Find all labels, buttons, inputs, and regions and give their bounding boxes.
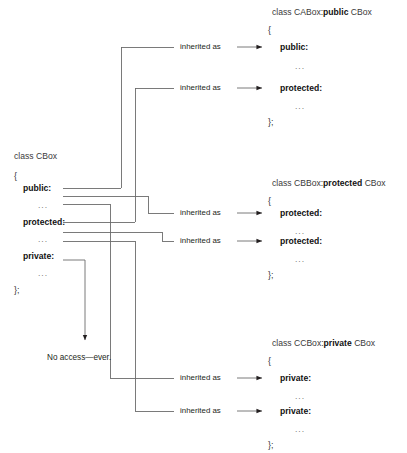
cabox-member-protected-label: protected: xyxy=(280,84,322,93)
cabox-header-base: CBox xyxy=(348,7,371,17)
diagram-canvas: class CBox { public: ... protected: ... … xyxy=(0,0,407,453)
ccbox-member-private-1-ellipsis: ... xyxy=(295,392,305,401)
edge-label-1: inherited as xyxy=(178,42,223,51)
edge-label-3: inherited as xyxy=(178,208,223,217)
ccbox-header-prefix: class xyxy=(272,338,294,348)
ccbox-open-brace: { xyxy=(268,357,271,366)
cabox-member-protected-ellipsis: ... xyxy=(295,102,305,111)
base-member-protected-label: protected: xyxy=(23,218,65,227)
base-class-header-prefix: class xyxy=(14,151,36,161)
base-member-protected-ellipsis: ... xyxy=(38,235,48,244)
base-class-close-brace: }; xyxy=(14,286,20,295)
base-member-public-label: public: xyxy=(23,184,51,193)
base-class-header-name: CBox xyxy=(36,151,57,161)
cbbox-member-protected-1-ellipsis: ... xyxy=(295,227,305,236)
cbbox-member-protected-2-label: protected: xyxy=(280,237,322,246)
cbbox-member-protected-2-ellipsis: ... xyxy=(295,255,305,264)
ccbox-member-private-2-ellipsis: ... xyxy=(295,425,305,434)
edge-label-6: inherited as xyxy=(178,406,223,415)
cabox-header: class CABox:public CBox xyxy=(272,8,372,17)
cbbox-header-prefix: class xyxy=(272,178,294,188)
base-member-public-ellipsis: ... xyxy=(38,201,48,210)
ccbox-close-brace: }; xyxy=(268,441,274,450)
ccbox-member-private-2-label: private: xyxy=(280,407,311,416)
ccbox-header-name: CCBox: xyxy=(294,338,324,348)
ccbox-member-private-1-label: private: xyxy=(280,374,311,383)
cabox-header-specifier: public xyxy=(323,7,348,17)
ccbox-header: class CCBox:private CBox xyxy=(272,339,375,348)
edge-label-5: inherited as xyxy=(178,373,223,382)
cabox-header-prefix: class xyxy=(272,7,294,17)
base-class-header: class CBox xyxy=(14,152,57,161)
cbbox-header-specifier: protected xyxy=(323,178,362,188)
cbbox-header-base: CBox xyxy=(362,178,385,188)
cabox-close-brace: }; xyxy=(268,118,274,127)
cabox-member-public-ellipsis: ... xyxy=(295,62,305,71)
cbbox-open-brace: { xyxy=(268,197,271,206)
ccbox-header-specifier: private xyxy=(324,338,352,348)
cabox-member-public-label: public: xyxy=(280,43,308,52)
cbbox-header-name: CBBox: xyxy=(294,178,323,188)
base-class-open-brace: { xyxy=(14,172,17,181)
cbbox-member-protected-1-label: protected: xyxy=(280,209,322,218)
ccbox-header-base: CBox xyxy=(352,338,375,348)
base-member-private-label: private: xyxy=(23,252,54,261)
base-member-private-ellipsis: ... xyxy=(38,269,48,278)
cbbox-header: class CBBox:protected CBox xyxy=(272,179,386,188)
cabox-header-name: CABox: xyxy=(294,7,323,17)
edge-label-4: inherited as xyxy=(178,236,223,245)
cbbox-close-brace: }; xyxy=(268,271,274,280)
edge-label-2: inherited as xyxy=(178,83,223,92)
cabox-open-brace: { xyxy=(268,26,271,35)
no-access-note: No access—ever. xyxy=(47,353,111,362)
